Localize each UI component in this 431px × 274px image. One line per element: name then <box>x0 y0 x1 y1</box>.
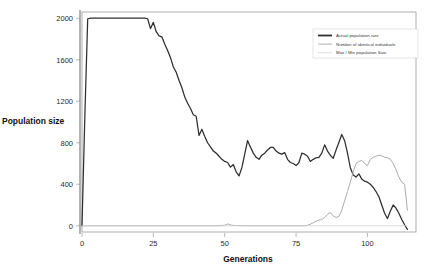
y-tick-label: 0 <box>69 222 73 231</box>
y-axis-title: Population size <box>2 116 65 126</box>
y-tick-label: 800 <box>60 139 73 148</box>
x-tick-label: 75 <box>292 239 300 248</box>
y-tick-label: 1200 <box>56 97 73 106</box>
x-tick-label: 25 <box>149 239 157 248</box>
legend-label-0: Actual population size <box>336 33 379 38</box>
x-tick-label: 0 <box>80 239 84 248</box>
legend-label-1: Number of identical individuals <box>336 42 396 47</box>
x-axis-ticks: 0255075100 <box>80 233 374 248</box>
chart-legend[interactable]: Actual population sizeNumber of identica… <box>313 29 418 58</box>
x-tick-label: 100 <box>361 239 374 248</box>
series-line <box>82 155 407 226</box>
y-tick-label: 1600 <box>56 56 73 65</box>
x-axis-title: Generations <box>223 254 273 264</box>
y-tick-label: 400 <box>60 180 73 189</box>
x-tick-label: 50 <box>221 239 229 248</box>
population-chart: 0400800120016002000 0255075100 Populatio… <box>0 0 431 274</box>
y-tick-label: 2000 <box>56 14 73 23</box>
legend-label-2: Max / Min population Size <box>336 50 387 55</box>
